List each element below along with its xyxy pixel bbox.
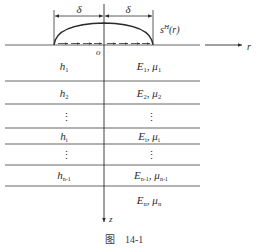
dimension-right-label: δ (125, 3, 131, 15)
r-axis-label: r (247, 41, 251, 52)
layer-1: h1 E1, μ1 (60, 60, 162, 73)
material-label: E1, μ1 (136, 60, 161, 73)
material-label: Ei, μi (137, 130, 160, 143)
layer-n-minus-1: hn-1 En-1, μn-1 (57, 169, 168, 182)
layer-n-half-space: En, μn (136, 194, 162, 207)
thickness-label: h1 (60, 60, 69, 73)
material-label: E2, μ2 (136, 87, 161, 100)
layer-i: hi Ei, μi (60, 130, 160, 143)
pressure-distribution-curve (54, 23, 153, 45)
dimension-lines (54, 10, 153, 45)
dimension-left-label: δ (76, 3, 82, 15)
thickness-label: hn-1 (57, 169, 71, 182)
layer-ellipsis-2: ⋮ ⋮ (61, 149, 157, 161)
origin-label: o (96, 47, 101, 57)
pressure-label: sH(r) (160, 23, 180, 36)
svg-text:⋮: ⋮ (61, 111, 72, 123)
layer-ellipsis-1: ⋮ ⋮ (61, 111, 157, 123)
layer-interfaces (5, 45, 200, 186)
layer-2: h2 E2, μ2 (60, 87, 162, 100)
material-label: En-1, μn-1 (133, 169, 168, 182)
layered-system-diagram: δ δ sH(r) r z o h1 E1, μ1 h2 E2, (0, 0, 260, 252)
z-axis-label: z (108, 214, 113, 224)
material-label: En, μn (136, 194, 162, 207)
figure-caption: 图14-1 (105, 234, 143, 245)
thickness-label: hi (60, 130, 68, 143)
svg-text:⋮: ⋮ (146, 149, 157, 161)
thickness-label: h2 (60, 87, 69, 100)
svg-text:⋮: ⋮ (61, 149, 72, 161)
svg-text:⋮: ⋮ (146, 111, 157, 123)
